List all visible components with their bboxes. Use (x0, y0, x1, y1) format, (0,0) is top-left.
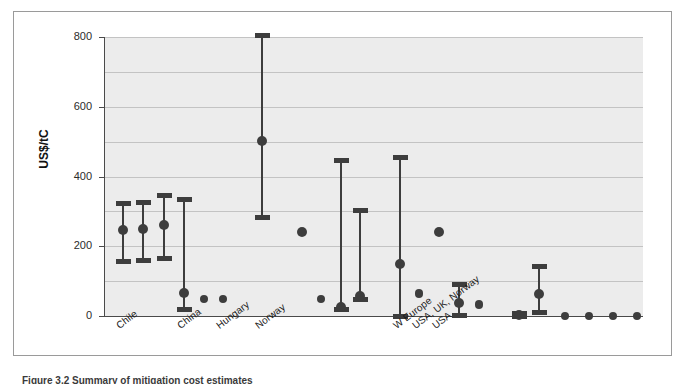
range-cap-high-17 (532, 264, 547, 269)
y-tick-mark-400 (99, 177, 105, 178)
gridline-400 (105, 177, 643, 178)
y-tick-label-wrap-0: 0 (52, 310, 96, 322)
y-tick-mark-200 (99, 246, 105, 247)
y-tick-label-400: 400 (52, 171, 92, 182)
data-point-16 (514, 310, 524, 320)
data-point-0 (118, 225, 128, 235)
y-tick-mark-800 (99, 37, 105, 38)
y-tick-label-600: 600 (52, 101, 92, 112)
range-cap-low-17 (532, 310, 547, 315)
gridline-200 (105, 246, 643, 247)
gridline-300 (105, 211, 643, 212)
data-point-6 (257, 136, 267, 146)
range-cap-high-9 (334, 158, 349, 163)
y-tick-label-wrap-200: 200 (52, 240, 96, 252)
range-line-10 (359, 211, 361, 300)
y-tick-mark-600 (99, 107, 105, 108)
data-point-15 (475, 300, 483, 308)
y-tick-label-wrap-800: 800 (52, 31, 96, 43)
data-point-18 (561, 312, 569, 320)
y-tick-label-wrap-400: 400 (52, 171, 96, 183)
y-tick-label-0: 0 (52, 310, 92, 321)
y-tick-label-200: 200 (52, 240, 92, 251)
gridline-800 (105, 37, 643, 38)
gridline-500 (105, 142, 643, 143)
range-line-11 (399, 157, 401, 316)
data-point-20 (609, 312, 617, 320)
range-cap-high-3 (177, 197, 192, 202)
gridline-700 (105, 72, 643, 73)
y-tick-mark-0 (99, 316, 105, 317)
range-cap-low-2 (157, 256, 172, 261)
range-line-9 (340, 160, 342, 309)
y-tick-label-wrap-600: 600 (52, 101, 96, 113)
figure-frame: 0200400600800 US$/tC ChileChinaHungaryNo… (13, 11, 672, 356)
range-cap-high-11 (393, 155, 408, 160)
range-cap-low-1 (136, 258, 151, 263)
figure-caption: Figure 3.2 Summary of mitigation cost es… (22, 375, 253, 384)
gridline-100 (105, 281, 643, 282)
range-line-6 (261, 35, 263, 217)
range-cap-high-10 (353, 208, 368, 213)
range-cap-low-14 (452, 313, 467, 318)
range-cap-low-0 (116, 259, 131, 264)
range-cap-high-6 (255, 33, 270, 38)
data-point-17 (534, 289, 544, 299)
range-cap-high-0 (116, 201, 131, 206)
range-cap-high-2 (157, 193, 172, 198)
range-cap-low-6 (255, 215, 270, 220)
data-point-19 (585, 312, 593, 320)
data-point-1 (138, 224, 148, 234)
data-point-21 (633, 312, 641, 320)
data-point-12 (415, 289, 423, 297)
gridline-600 (105, 107, 643, 108)
y-tick-label-800: 800 (52, 31, 92, 42)
y-axis-title: US$/tC (37, 109, 51, 189)
range-cap-high-1 (136, 200, 151, 205)
